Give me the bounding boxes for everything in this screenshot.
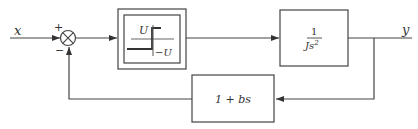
- output-label-y: y: [401, 22, 410, 37]
- plant-numerator: 1: [311, 26, 317, 37]
- relay-lower-label: −U: [155, 47, 172, 58]
- relay-upper-label: U: [139, 24, 149, 37]
- input-label-x: x: [14, 23, 22, 38]
- relay-block: [118, 9, 186, 69]
- feedback-block-label: 1 + bs: [215, 93, 251, 106]
- plus-sign: +: [54, 21, 63, 34]
- block-diagram: x + − U −U 1 Js2 y 1 + bs: [0, 0, 418, 129]
- minus-sign: −: [55, 44, 64, 57]
